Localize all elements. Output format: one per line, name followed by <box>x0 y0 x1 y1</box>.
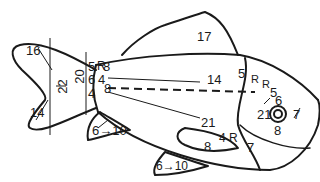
caudal-length-count: 22 <box>56 79 69 93</box>
pectoral-count-4r: 4 R <box>219 132 238 144</box>
head-r: R <box>262 79 270 90</box>
eye-outer <box>270 106 286 122</box>
eye-count-21: 21 <box>257 108 271 121</box>
back-count-5: 5 <box>238 67 245 80</box>
fish-diagram: 16 14 22 20 5 6 4 R 8 4 8 17 14 21 5 R R… <box>0 0 320 182</box>
dorsal-fin-shape <box>122 12 238 55</box>
eye-inner <box>274 110 282 118</box>
eye-count-8: 8 <box>274 124 281 137</box>
caudal-upper-count: 16 <box>26 44 40 57</box>
anal-fin-count: 6→10 <box>92 124 127 137</box>
back-r: R <box>251 74 259 85</box>
pelvic-fin-count: 6→10 <box>156 160 188 172</box>
lateral-count-14: 14 <box>207 73 221 86</box>
caudal-lower-count: 14 <box>30 106 44 119</box>
lateral-line-21 <box>108 92 200 118</box>
dorsal-fin-count: 17 <box>197 30 211 43</box>
operculum-count-7: 7 <box>247 141 254 154</box>
peduncle-depth-count: 20 <box>73 69 86 83</box>
eye-count-7: 7 <box>293 108 300 121</box>
lateral-count-21: 21 <box>201 116 215 129</box>
peduncle-count-8-bottom: 8 <box>104 82 111 95</box>
dashed-lateral-line <box>108 88 255 92</box>
lateral-line-14 <box>108 78 200 82</box>
pectoral-count-8: 8 <box>204 140 211 153</box>
peduncle-count-6: 6 <box>88 73 95 86</box>
eye-count-6: 6 <box>275 94 282 107</box>
peduncle-count-4: 4 <box>88 87 95 100</box>
